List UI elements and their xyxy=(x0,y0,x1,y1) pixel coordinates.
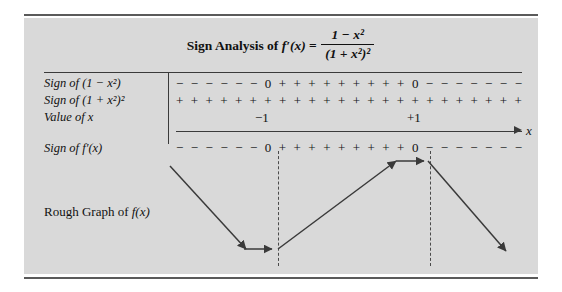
sign-glyph: 0 xyxy=(412,140,419,156)
sign-glyph: − xyxy=(485,76,492,92)
row-label-value-of-x: Value of x xyxy=(44,110,93,125)
sign-glyph: − xyxy=(500,76,507,92)
sign-glyph: + xyxy=(382,93,389,109)
figure-title: Sign Analysis of f′(x) = 1 − x²(1 + x²)² xyxy=(24,28,538,63)
sign-glyph: − xyxy=(235,140,242,156)
graph-increasing-branch xyxy=(278,161,396,249)
x-value-negative-one: −1 xyxy=(255,110,269,126)
table-top-rule xyxy=(44,72,522,73)
sign-glyph: − xyxy=(235,76,242,92)
sign-glyph: + xyxy=(279,140,286,156)
sign-glyph: + xyxy=(191,93,198,109)
sign-glyph: + xyxy=(279,93,286,109)
sign-glyph: − xyxy=(176,140,183,156)
row-label-sign-of-numerator: Sign of (1 − x²) xyxy=(44,76,121,91)
x-value-positive-one: +1 xyxy=(407,110,421,126)
sign-glyph: − xyxy=(470,76,477,92)
axis-label-x: x xyxy=(526,123,532,139)
sign-glyph: 0 xyxy=(265,76,272,92)
sign-glyph: + xyxy=(308,93,315,109)
sign-glyph: + xyxy=(426,93,433,109)
sign-glyph: + xyxy=(441,93,448,109)
sign-glyph: − xyxy=(206,140,213,156)
sign-glyph: − xyxy=(485,140,492,156)
graph-decreasing-branch-right xyxy=(428,161,506,251)
rough-graph-caption-function: f(x) xyxy=(132,204,150,219)
sign-glyph: 0 xyxy=(265,140,272,156)
sign-glyph: − xyxy=(206,76,213,92)
title-function: f′(x) xyxy=(282,38,306,53)
dashed-vertical-at-negative-one xyxy=(278,151,279,266)
sign-glyph: + xyxy=(338,76,345,92)
sign-glyph: + xyxy=(353,140,360,156)
sign-glyph: + xyxy=(397,76,404,92)
sign-glyph: + xyxy=(368,140,375,156)
sign-glyph: + xyxy=(323,140,330,156)
sign-glyph: − xyxy=(441,140,448,156)
sign-glyph: − xyxy=(455,76,462,92)
sign-glyph: + xyxy=(500,93,507,109)
sign-glyph: + xyxy=(235,93,242,109)
sign-glyph: + xyxy=(382,76,389,92)
title-prefix: Sign Analysis of xyxy=(187,38,282,53)
dashed-vertical-at-positive-one xyxy=(430,151,431,266)
sign-glyph: + xyxy=(279,76,286,92)
sign-glyph: − xyxy=(426,76,433,92)
sign-glyph: + xyxy=(382,140,389,156)
row-label-sign-of-derivative: Sign of f′(x) xyxy=(44,141,102,156)
sign-glyph: − xyxy=(191,76,198,92)
sign-glyph: − xyxy=(191,140,198,156)
sign-glyph: − xyxy=(470,140,477,156)
sign-glyph: + xyxy=(353,76,360,92)
sign-glyph: − xyxy=(250,76,257,92)
sign-glyph: − xyxy=(455,140,462,156)
bottom-divider-rule xyxy=(24,277,538,279)
sign-glyph: + xyxy=(323,93,330,109)
sign-glyph: 0 xyxy=(412,76,419,92)
number-line-axis xyxy=(176,131,516,132)
title-equals: = xyxy=(306,38,320,53)
sign-glyph: − xyxy=(220,140,227,156)
axis-arrowhead-icon xyxy=(514,126,522,134)
row-label-sign-of-denominator: Sign of (1 + x²)² xyxy=(44,93,125,108)
sign-glyph: + xyxy=(308,76,315,92)
top-divider-rule xyxy=(24,14,538,16)
sign-glyph: − xyxy=(515,140,522,156)
sign-glyph: + xyxy=(220,93,227,109)
sign-glyph: + xyxy=(397,93,404,109)
sign-glyph: − xyxy=(515,76,522,92)
figure-panel: Sign Analysis of f′(x) = 1 − x²(1 + x²)²… xyxy=(24,18,538,274)
sign-glyph: + xyxy=(308,140,315,156)
table-vertical-divider xyxy=(168,72,169,144)
sign-glyph: + xyxy=(264,93,271,109)
sign-glyph: + xyxy=(367,93,374,109)
sign-glyph: + xyxy=(205,93,212,109)
sign-glyph: + xyxy=(338,140,345,156)
sign-glyph: + xyxy=(294,140,301,156)
title-numerator: 1 − x² xyxy=(321,27,374,45)
sign-analysis-figure: Sign Analysis of f′(x) = 1 − x²(1 + x²)²… xyxy=(0,0,562,292)
sign-glyph: + xyxy=(250,93,257,109)
sign-glyph: + xyxy=(485,93,492,109)
graph-decreasing-branch-left xyxy=(170,166,246,249)
sign-glyph: + xyxy=(397,140,404,156)
rough-graph-caption-prefix: Rough Graph of xyxy=(44,204,132,219)
sign-glyph: − xyxy=(220,76,227,92)
sign-glyph: − xyxy=(250,140,257,156)
sign-glyph: + xyxy=(338,93,345,109)
sign-glyph: + xyxy=(176,93,183,109)
sign-glyph: + xyxy=(323,76,330,92)
sign-glyph: + xyxy=(515,93,522,109)
title-fraction: 1 − x²(1 + x²)² xyxy=(321,27,374,62)
sign-glyph: + xyxy=(294,93,301,109)
sign-glyph: + xyxy=(470,93,477,109)
sign-glyph: − xyxy=(500,140,507,156)
sign-glyph: + xyxy=(456,93,463,109)
title-denominator: (1 + x²)² xyxy=(321,45,374,63)
sign-row-numerator: −−−−−−0+++++++++0−−−−−−− xyxy=(176,76,522,92)
sign-glyph: + xyxy=(368,76,375,92)
rough-graph-caption: Rough Graph of f(x) xyxy=(44,204,150,220)
sign-glyph: + xyxy=(412,93,419,109)
sign-glyph: + xyxy=(353,93,360,109)
sign-glyph: + xyxy=(294,76,301,92)
